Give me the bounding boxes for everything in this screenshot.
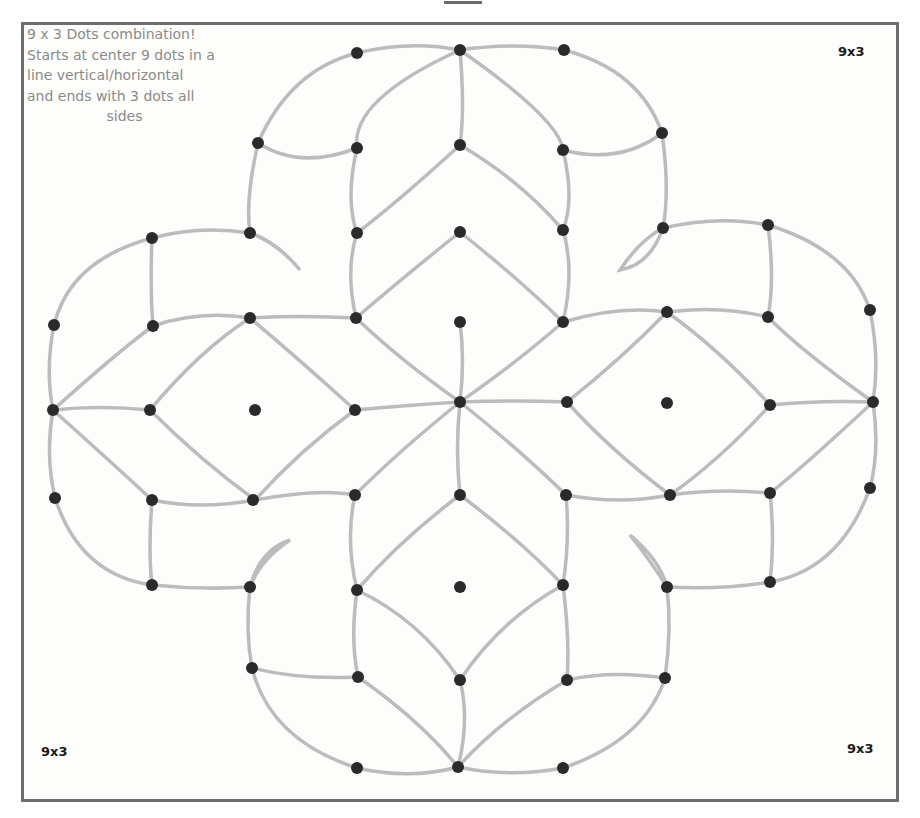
kolam-dot: [454, 489, 466, 501]
kolam-dot: [352, 671, 364, 683]
kolam-dot: [557, 224, 569, 236]
kolam-dot: [557, 579, 569, 591]
kolam-dot: [351, 142, 363, 154]
kolam-dot: [144, 404, 156, 416]
kolam-dot: [657, 222, 669, 234]
kolam-dot: [557, 144, 569, 156]
description-line: line vertical/horizontal: [27, 65, 257, 86]
kolam-dot: [351, 762, 363, 774]
description-line: 9 x 3 Dots combination!: [27, 24, 257, 45]
kolam-dot: [247, 494, 259, 506]
kolam-dot: [560, 489, 572, 501]
kolam-dot: [146, 494, 158, 506]
kolam-dot: [864, 304, 876, 316]
kolam-dot: [49, 492, 61, 504]
kolam-dot: [764, 487, 776, 499]
kolam-dot: [246, 662, 258, 674]
kolam-dot: [661, 397, 673, 409]
description-line: sides: [27, 106, 222, 127]
kolam-dot: [454, 226, 466, 238]
kolam-dot: [561, 674, 573, 686]
kolam-lines: [49, 46, 876, 774]
kolam-dot: [561, 396, 573, 408]
kolam-dot: [351, 227, 363, 239]
kolam-dot: [557, 762, 569, 774]
description-line: Starts at center 9 dots in a: [27, 45, 257, 66]
kolam-dot: [146, 579, 158, 591]
kolam-dot: [454, 674, 466, 686]
kolam-dot: [558, 44, 570, 56]
kolam-dot: [661, 581, 673, 593]
kolam-dots: [47, 44, 879, 774]
kolam-dot: [350, 312, 362, 324]
kolam-dot: [349, 404, 361, 416]
kolam-dot: [244, 227, 256, 239]
corner-label-top-right: 9x3: [838, 44, 864, 59]
kolam-dot: [454, 396, 466, 408]
kolam-dot: [454, 316, 466, 328]
kolam-dot: [146, 232, 158, 244]
kolam-dot: [452, 761, 464, 773]
kolam-dot: [351, 584, 363, 596]
kolam-dot: [661, 306, 673, 318]
kolam-dot: [249, 404, 261, 416]
kolam-dot: [454, 139, 466, 151]
kolam-dot: [762, 219, 774, 231]
kolam-dot: [252, 137, 264, 149]
corner-label-bottom-left: 9x3: [41, 744, 67, 759]
kolam-dot: [557, 316, 569, 328]
corner-label-bottom-right: 9x3: [847, 741, 873, 756]
kolam-dot: [764, 399, 776, 411]
kolam-dot: [48, 319, 60, 331]
kolam-dot: [764, 576, 776, 588]
kolam-dot: [349, 489, 361, 501]
kolam-dot: [664, 489, 676, 501]
kolam-dot: [244, 581, 256, 593]
description-line: and ends with 3 dots all: [27, 86, 257, 107]
kolam-dot: [867, 396, 879, 408]
kolam-dot: [351, 47, 363, 59]
kolam-dot: [656, 127, 668, 139]
kolam-dot: [454, 44, 466, 56]
kolam-dot: [659, 672, 671, 684]
pattern-description: 9 x 3 Dots combination! Starts at center…: [27, 24, 257, 127]
kolam-dot: [244, 312, 256, 324]
kolam-dot: [47, 404, 59, 416]
kolam-dot: [762, 311, 774, 323]
kolam-dot: [147, 320, 159, 332]
kolam-dot: [864, 482, 876, 494]
kolam-dot: [454, 581, 466, 593]
